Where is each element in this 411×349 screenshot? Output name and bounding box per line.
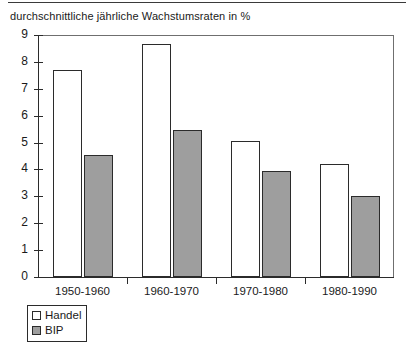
y-axis-tick: 1: [34, 250, 43, 251]
bar-bip-1960-1970: [173, 130, 202, 277]
y-axis-tick: 6: [34, 116, 43, 117]
white-square-swatch: [32, 311, 41, 320]
y-axis-tick: 4: [34, 169, 43, 170]
y-axis-tick-label: 8: [21, 54, 28, 69]
legend-label: BIP: [45, 324, 64, 337]
legend-item-handel: Handel: [32, 308, 81, 323]
y-axis-tick-label: 6: [21, 108, 28, 123]
y-axis-tick-label: 9: [21, 27, 28, 42]
chart-figure: durchschnittliche jährliche Wachstumsrat…: [0, 0, 411, 349]
x-axis-label-1950-1960: 1950-1960: [55, 284, 110, 298]
bar-handel-1960-1970: [142, 44, 171, 277]
x-axis-separator-tick: [305, 278, 306, 284]
x-axis-label-1960-1970: 1960-1970: [144, 284, 199, 298]
y-axis-tick-label: 4: [21, 161, 28, 176]
y-axis-tick: 7: [34, 89, 43, 90]
y-axis-tick-label: 2: [21, 215, 28, 230]
y-axis-tick-label: 0: [21, 269, 28, 284]
y-axis-tick: 2: [34, 223, 43, 224]
gray-square-swatch: [32, 326, 41, 335]
y-axis-line: [38, 35, 39, 278]
y-axis-tick-label: 1: [21, 242, 28, 257]
chart-title: durchschnittliche jährliche Wachstumsrat…: [10, 10, 250, 23]
y-axis-tick: 0: [34, 277, 43, 278]
y-axis-tick-label: 7: [21, 81, 28, 96]
plot-area: 0123456789: [38, 35, 394, 277]
bar-handel-1970-1980: [231, 141, 260, 277]
bar-handel-1980-1990: [320, 164, 349, 277]
y-axis-tick-label: 5: [21, 135, 28, 150]
y-axis-tick: 9: [34, 35, 43, 36]
bar-handel-1950-1960: [53, 70, 82, 277]
y-axis-tick: 5: [34, 143, 43, 144]
legend-label: Handel: [45, 309, 81, 322]
x-axis-separator-tick: [216, 278, 217, 284]
bar-bip-1980-1990: [351, 196, 380, 277]
plot-frame-top: [38, 35, 394, 36]
chart-legend: HandelBIP: [27, 305, 87, 342]
bar-bip-1970-1980: [262, 171, 291, 277]
header-divider: [8, 2, 406, 3]
x-axis-separator-tick: [127, 278, 128, 284]
x-axis-label-1970-1980: 1970-1980: [233, 284, 288, 298]
y-axis-tick: 3: [34, 196, 43, 197]
x-axis-label-1980-1990: 1980-1990: [322, 284, 377, 298]
bar-bip-1950-1960: [84, 155, 113, 277]
y-axis-tick: 8: [34, 62, 43, 63]
legend-item-bip: BIP: [32, 323, 81, 338]
plot-frame-right: [393, 35, 394, 278]
y-axis-tick-label: 3: [21, 188, 28, 203]
